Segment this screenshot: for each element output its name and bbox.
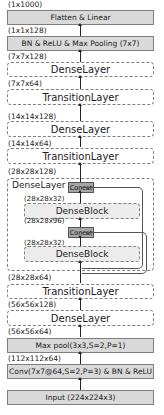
arrow [80, 380, 81, 390]
shape-label-dense3: (14x14x128) [8, 112, 56, 121]
shape-label-dense1: (56x56x128) [8, 300, 56, 309]
arrow [80, 138, 81, 147]
arrow [80, 52, 81, 62]
shape-label-trans2: (14x14x64) [8, 139, 51, 148]
arrow [80, 220, 81, 227]
shape-label-dense2: (28x28x128) [8, 167, 56, 176]
shape-label-trans3: (7x7x64) [8, 79, 42, 88]
shape-label-trans1: (28x28x64) [8, 273, 51, 282]
arrow [80, 354, 81, 364]
shape-label-maxpool: (56x56x64) [8, 327, 51, 336]
inner-shape-label: (28x28x32) [24, 195, 64, 203]
skip-connection-inner [82, 232, 147, 274]
input-box: Input (224x224x3) [7, 390, 154, 405]
arrow [80, 300, 81, 310]
inner-shape-label: (28x28x96) [24, 217, 64, 225]
shape-label-bn-pool: (1x1x128) [8, 26, 47, 35]
dense-layer-title: DenseLayer [12, 180, 66, 190]
arrow [80, 26, 81, 36]
arrow [80, 238, 81, 246]
shape-label-flatten: (1x1000) [8, 0, 42, 9]
arrow [80, 78, 81, 89]
shape-label-conv: (112x112x64) [8, 354, 61, 363]
shape-label-dense4: (7x7x128) [8, 52, 47, 61]
arrow [80, 327, 81, 337]
arrow [80, 193, 81, 203]
arrow [80, 106, 81, 121]
arrow [80, 263, 81, 283]
